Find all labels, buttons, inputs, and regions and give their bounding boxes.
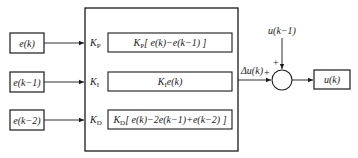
feedback-label: u(k−1) bbox=[268, 25, 297, 37]
term-box-integral: KIe(k) bbox=[108, 72, 232, 91]
input-label: e(k) bbox=[19, 38, 35, 50]
gain-kd: KD bbox=[89, 114, 102, 127]
term-label: KIe(k) bbox=[157, 76, 183, 89]
output-label: u(k) bbox=[324, 74, 341, 86]
input-label: e(k−1) bbox=[13, 77, 41, 89]
delta-u-label: Δu(k) bbox=[240, 65, 264, 77]
sum-sign-left: + bbox=[264, 67, 270, 78]
term-box-derivative: KD[ e(k)−2e(k−1)+e(k−2) ] bbox=[108, 110, 232, 129]
sum-sign-top: + bbox=[273, 57, 279, 68]
gain-ki: KI bbox=[89, 76, 100, 89]
summing-junction bbox=[272, 70, 292, 90]
incremental-pid-diagram: e(k) e(k−1) e(k−2) KP KI KD KP[ e(k)−e(k… bbox=[0, 0, 358, 158]
gain-kp: KP bbox=[89, 37, 101, 50]
output-box-u-k: u(k) bbox=[314, 70, 350, 89]
input-box-e-k-1: e(k−1) bbox=[10, 72, 44, 92]
input-box-e-k: e(k) bbox=[10, 33, 44, 53]
input-label: e(k−2) bbox=[13, 115, 41, 127]
term-box-proportional: KP[ e(k)−e(k−1) ] bbox=[108, 33, 232, 52]
input-box-e-k-2: e(k−2) bbox=[10, 110, 44, 130]
term-label: KP[ e(k)−e(k−1) ] bbox=[133, 37, 207, 50]
term-label: KD[ e(k)−2e(k−1)+e(k−2) ] bbox=[112, 114, 226, 127]
